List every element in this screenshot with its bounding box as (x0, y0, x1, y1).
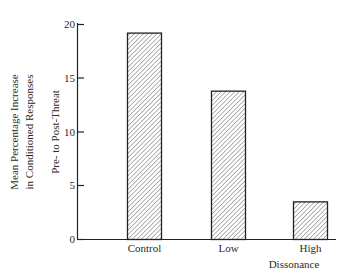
x-axis-title: Dissonance (269, 258, 320, 270)
bar-control (128, 33, 162, 239)
bar-high (294, 202, 328, 240)
y-tick-5: 5 (70, 179, 76, 191)
x-tick-high: High (300, 242, 323, 254)
x-tick-control: Control (128, 242, 162, 254)
y-tick-0: 0 (70, 233, 76, 245)
x-tick-low: Low (218, 242, 238, 254)
y-tick-10: 10 (64, 126, 76, 138)
y-tick-15: 15 (64, 72, 76, 84)
y-tick-labels: 0 5 10 15 20 (64, 18, 76, 245)
x-tick-labels: ControlLowHigh (128, 242, 322, 254)
bars (128, 33, 328, 239)
bar-low (212, 91, 246, 239)
y-axis-title-line2: in Conditioned Responses (23, 75, 35, 190)
bar-chart: Mean Percentage Increase in Conditioned … (0, 0, 349, 280)
y-axis-title: Mean Percentage Increase in Conditioned … (8, 74, 61, 190)
y-axis-title-line3: Pre- to Post-Threat (49, 90, 61, 174)
y-tick-20: 20 (64, 18, 76, 30)
y-axis-title-line1: Mean Percentage Increase (8, 74, 20, 190)
